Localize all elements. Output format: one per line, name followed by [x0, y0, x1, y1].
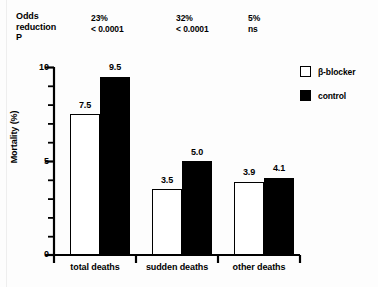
x-category-label-sudden-deaths: sudden deaths: [132, 262, 222, 272]
y-tick-label-10: 10: [29, 62, 49, 72]
x-category-label-other-deaths: other deaths: [214, 262, 304, 272]
plot-area: Mortality (%) 10 5 0: [0, 0, 378, 287]
x-category-label-total-deaths: total deaths: [50, 262, 140, 272]
figure-canvas: Odds reduction P 23% < 0.0001 32% < 0.00…: [0, 0, 378, 287]
bar-other-deaths-control: [264, 178, 294, 255]
bar-total-deaths-control: [100, 77, 130, 255]
bar-sudden-deaths-beta-blocker: [152, 189, 182, 255]
bar-value-label: 3.5: [150, 175, 184, 185]
bar-other-deaths-beta-blocker: [234, 182, 264, 255]
bar-value-label: 9.5: [98, 62, 132, 72]
bar-value-label: 5.0: [180, 147, 214, 157]
bar-value-label: 7.5: [68, 100, 102, 110]
y-tick-label-5: 5: [29, 156, 49, 166]
bar-total-deaths-beta-blocker: [70, 114, 100, 255]
bar-value-label: 4.1: [262, 163, 296, 173]
bar-value-label: 3.9: [232, 167, 266, 177]
y-tick-label-0: 0: [29, 249, 49, 259]
bar-sudden-deaths-control: [182, 161, 212, 255]
